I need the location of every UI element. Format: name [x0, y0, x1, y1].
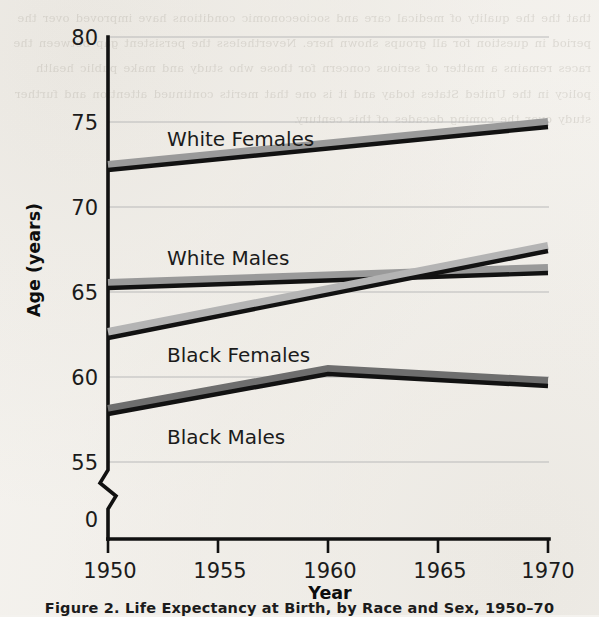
x-tick-marks — [108, 539, 548, 553]
ytick-label-60: 60 — [71, 366, 98, 390]
series-black-males — [108, 369, 548, 414]
ytick-label-65: 65 — [71, 281, 98, 305]
xtick-label-1960: 1960 — [303, 559, 356, 583]
ytick-label-80: 80 — [71, 26, 98, 50]
figure-caption: Figure 2. Life Expectancy at Birth, by R… — [0, 599, 599, 617]
xtick-label-1965: 1965 — [413, 559, 466, 583]
series-label-white-females: White Females — [167, 127, 314, 151]
figure-caption-text: Figure 2. Life Expectancy at Birth, by R… — [0, 600, 599, 616]
ytick-label-75: 75 — [71, 111, 98, 135]
series-label-black-males: Black Males — [167, 425, 285, 449]
series-label-white-males: White Males — [167, 246, 289, 270]
series-label-black-females: Black Females — [167, 343, 310, 367]
xtick-label-1955: 1955 — [193, 559, 246, 583]
xtick-label-1950: 1950 — [83, 559, 136, 583]
x-tick-labels: 1950 1955 1960 1965 1970 — [83, 559, 574, 583]
ytick-label-zero: 0 — [85, 508, 98, 532]
y-tick-labels: 80 75 70 65 60 55 0 — [71, 26, 98, 532]
xtick-label-1970: 1970 — [521, 559, 574, 583]
y-axis-title: Age (years) — [24, 203, 44, 317]
ytick-label-70: 70 — [71, 196, 98, 220]
ytick-label-55: 55 — [71, 451, 98, 475]
